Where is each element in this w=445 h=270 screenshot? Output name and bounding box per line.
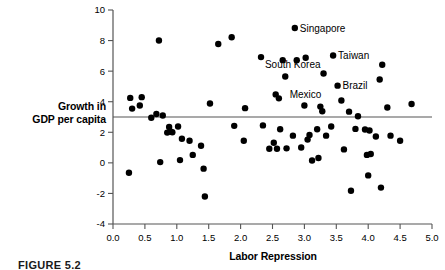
data-point [190, 152, 196, 158]
data-point [378, 184, 384, 190]
data-point [266, 146, 272, 152]
y-tick-label: -4 [97, 218, 105, 229]
data-point [348, 187, 354, 193]
data-point [179, 136, 185, 142]
data-point [139, 94, 145, 100]
x-tick-label: 2.0 [234, 232, 247, 243]
x-axis-title: Labor Repression [113, 250, 433, 262]
data-point-group [126, 25, 415, 200]
data-point [346, 108, 352, 114]
data-point [242, 105, 248, 111]
data-point [177, 157, 183, 163]
data-point [328, 123, 334, 129]
y-tick-label: 4 [100, 96, 105, 107]
scatter-plot: -4-20246810 0.00.51.01.52.02.53.03.54.04… [0, 0, 445, 270]
data-point [129, 105, 135, 111]
data-point [282, 73, 288, 79]
data-point [309, 157, 315, 163]
data-point [338, 97, 344, 103]
data-point [319, 108, 325, 114]
figure-container: Growth in GDP per capita -4-20246810 0.0… [0, 0, 445, 270]
data-point [198, 143, 204, 149]
annotation-group: SingaporeTaiwanSouth KoreaBrazilMexico [265, 23, 369, 100]
data-point [292, 25, 298, 31]
y-tick-label: -2 [97, 188, 105, 199]
data-point [355, 113, 361, 119]
data-point [274, 146, 280, 152]
data-point [384, 104, 390, 110]
data-point [323, 132, 329, 138]
data-point [373, 133, 379, 139]
data-point [228, 34, 234, 40]
data-point [320, 70, 326, 76]
data-point [160, 112, 166, 118]
y-axis-ticks: -4-20246810 [94, 4, 113, 229]
data-point [200, 165, 206, 171]
data-point [156, 37, 162, 43]
data-point [379, 62, 385, 68]
point-annotation-label: Mexico [290, 89, 322, 100]
data-point [186, 137, 192, 143]
data-point [175, 123, 181, 129]
data-point [260, 122, 266, 128]
x-tick-label: 5.0 [425, 232, 438, 243]
data-point [148, 115, 154, 121]
y-tick-label: 6 [100, 66, 105, 77]
data-point [290, 132, 296, 138]
data-point [408, 101, 414, 107]
data-point [207, 100, 213, 106]
y-tick-label: 10 [94, 4, 105, 15]
data-point [341, 146, 347, 152]
data-point [314, 126, 320, 132]
data-point [231, 123, 237, 129]
data-point [157, 159, 163, 165]
data-point [276, 95, 282, 101]
x-tick-label: 2.5 [266, 232, 279, 243]
x-tick-label: 3.5 [330, 232, 343, 243]
data-point [283, 145, 289, 151]
data-point [366, 127, 372, 133]
data-point [352, 126, 358, 132]
point-annotation-label: Taiwan [338, 50, 369, 61]
figure-caption: FIGURE 5.2 [18, 259, 81, 270]
y-tick-label: 2 [100, 127, 105, 138]
data-point [137, 102, 143, 108]
point-annotation-label: Brazil [343, 80, 368, 91]
data-point [315, 155, 321, 161]
data-point [334, 82, 340, 88]
data-point [127, 95, 133, 101]
x-tick-label: 1.5 [202, 232, 215, 243]
data-point [306, 132, 312, 138]
data-point [330, 52, 336, 58]
x-tick-label: 0.0 [106, 232, 119, 243]
x-tick-label: 4.0 [362, 232, 375, 243]
data-point [153, 111, 159, 117]
data-point [241, 137, 247, 143]
x-tick-label: 3.0 [298, 232, 311, 243]
x-axis-ticks: 0.00.51.01.52.02.53.03.54.04.55.0 [106, 224, 438, 243]
data-point [365, 172, 371, 178]
data-point [368, 151, 374, 157]
data-point [387, 132, 393, 138]
data-point [126, 170, 132, 176]
data-point [271, 139, 277, 145]
x-tick-label: 1.0 [170, 232, 183, 243]
data-point [169, 129, 175, 135]
y-tick-label: 8 [100, 35, 105, 46]
data-point [376, 76, 382, 82]
x-tick-label: 4.5 [393, 232, 406, 243]
data-point [397, 137, 403, 143]
point-annotation-label: South Korea [265, 59, 321, 70]
y-tick-label: 0 [100, 157, 105, 168]
data-point [215, 41, 221, 47]
x-tick-label: 0.5 [138, 232, 151, 243]
data-point [301, 102, 307, 108]
data-point [258, 54, 264, 60]
data-point [202, 193, 208, 199]
data-point [298, 144, 304, 150]
point-annotation-label: Singapore [300, 23, 346, 34]
data-point [277, 126, 283, 132]
